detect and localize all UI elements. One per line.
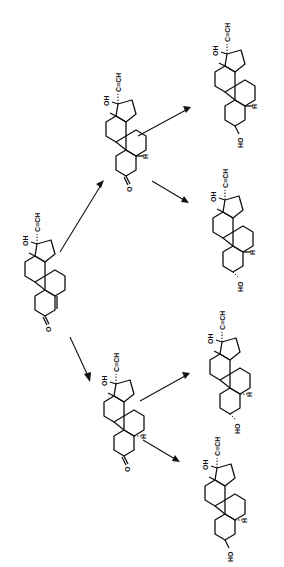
arrow-upper-to-diol-1 [138,106,191,136]
ho-label: HO [227,551,234,562]
ethynyl-label: C≡CH [113,353,120,372]
ethynyl-label: C≡CH [214,437,221,456]
h-label: H [249,250,256,255]
ethynyl-label: C≡CH [115,73,122,92]
arrow-start-to-lower [70,337,91,382]
compound-ketone-lower: OH C≡CH H O [101,353,147,472]
oh-label: OH [212,46,219,57]
oh-label: OH [103,96,110,107]
compound-diol-3: OH C≡CH H HO [207,311,253,434]
h-label: H [142,154,149,159]
arrow-lower-to-diol-3 [140,372,190,401]
oh-label: OH [207,334,214,345]
ketone-o-label: O [45,326,52,332]
h-label: H [251,104,258,109]
h-label: H [241,518,248,523]
ketone-o-label: O [124,466,131,472]
ethynyl-label: C≡CH [34,213,41,232]
oh-label: OH [22,236,29,247]
h-label: H [246,392,253,397]
ethynyl-label: C≡CH [219,311,226,330]
compound-diol-1: OH C≡CH H HO [212,23,258,148]
h-label: H [140,434,147,439]
compound-ketone-upper: OH C≡CH H O [103,73,149,192]
ho-label: HO [237,281,244,292]
compound-diol-2: OH C≡CH H HO [210,169,256,292]
ketone-o-label: O [126,186,133,192]
oh-label: OH [210,192,217,203]
ho-label: HO [237,137,244,148]
reaction-scheme: OH C≡CH O OH C≡CH H O OH C≡CH H O OH [0,0,284,567]
arrow-start-to-upper [60,180,104,252]
arrow-upper-to-diol-2 [152,181,189,203]
ethynyl-label: C≡CH [222,169,229,188]
reaction-arrows [60,106,191,462]
compound-start: OH C≡CH O [22,213,65,332]
oh-label: OH [101,376,108,387]
ethynyl-label: C≡CH [224,23,231,42]
compound-diol-4: OH C≡CH H HO [202,437,248,562]
oh-label: OH [202,460,209,471]
arrow-lower-to-diol-4 [143,440,180,462]
ho-label: HO [234,423,241,434]
